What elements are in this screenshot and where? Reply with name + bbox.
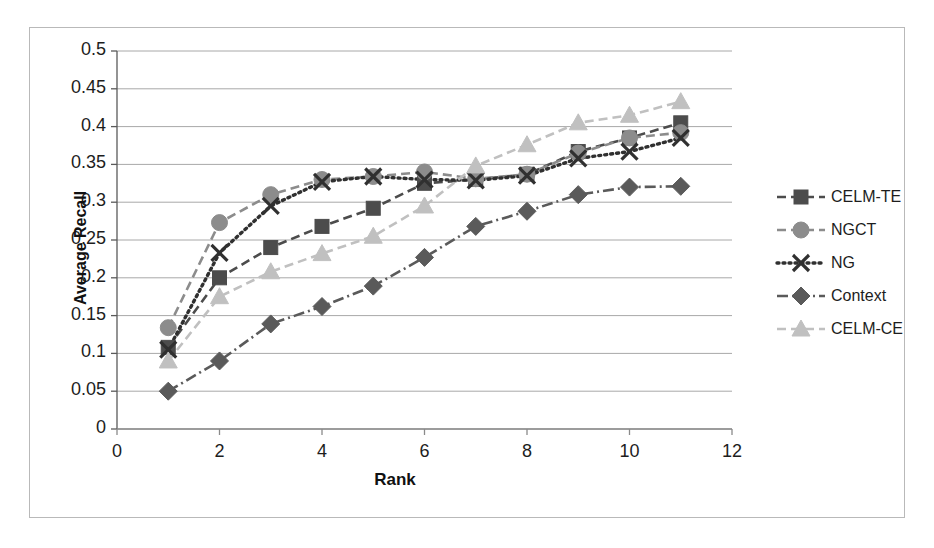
data-point-ngct [160,320,176,336]
x-axis-tick-label: 10 [600,441,660,462]
series-line-context [168,186,681,391]
data-point-context [159,382,177,400]
data-point-celm-ce [569,114,587,130]
data-point-celm-ce [467,157,485,173]
legend-label: NGCT [831,221,876,239]
gridlines-group [117,51,732,429]
y-axis-tick-label: 0.15 [71,304,106,325]
legend-item-celm-ce[interactable]: CELM-CE [775,312,925,345]
legend-label: NG [831,254,855,272]
legend-item-celm-te[interactable]: CELM-TE [775,180,925,213]
y-axis-tick-label: 0 [96,417,106,438]
x-axis-tick-label: 12 [702,441,762,462]
data-point-context [364,277,382,295]
data-point-context [569,186,587,204]
series-markers-group [159,93,690,401]
y-axis-tick-label: 0.4 [81,115,106,136]
series-line-celm-ce [168,102,681,361]
x-axis-tick-label: 4 [292,441,352,462]
chart-figure: 00.050.10.150.20.250.30.350.40.450.5 024… [0,0,934,548]
data-point-celm-ce [364,227,382,243]
legend-symbol-circle-icon [775,220,827,240]
legend-label: CELM-CE [831,320,903,338]
y-axis-tick-label: 0.05 [71,379,106,400]
data-point-ngct [212,215,228,231]
series-lines-group [168,102,681,392]
data-point-celm-ce [518,136,536,152]
legend-symbol-cross-icon [775,253,827,273]
legend-item-ng[interactable]: NG [775,246,925,279]
data-point-celm-ce [621,106,639,122]
legend-item-context[interactable]: Context [775,279,925,312]
legend-marker-square-icon [794,190,808,204]
data-point-celm-te [213,271,227,285]
series-line-celm-te [168,123,681,348]
data-point-celm-ce [416,197,434,213]
x-axis-tick-label: 6 [395,441,455,462]
data-point-context [672,177,690,195]
data-point-context [313,298,331,316]
legend-symbol-diamond-icon [775,286,827,306]
y-axis-tick-label: 0.1 [81,341,106,362]
data-point-context [621,178,639,196]
y-axis-tick-label: 0.35 [71,152,106,173]
legend-symbol-triangle-icon [775,319,827,339]
data-point-celm-ce [211,288,229,304]
x-axis-tick-label: 2 [190,441,250,462]
y-axis-tick-label: 0.45 [71,77,106,98]
data-point-celm-te [315,219,329,233]
legend-label: CELM-TE [831,188,901,206]
legend-symbol-square-icon [775,187,827,207]
data-point-context [416,248,434,266]
data-point-context [518,202,536,220]
data-point-celm-te [264,241,278,255]
data-point-ngct [622,130,638,146]
data-point-ng [212,245,228,261]
data-point-context [262,315,280,333]
y-axis-title: Average Recall [72,191,90,305]
legend-label: Context [831,287,886,305]
x-axis-tick-label: 0 [87,441,147,462]
legend-marker-circle-icon [793,222,809,238]
axes-group [111,51,732,435]
data-point-ngct [314,172,330,188]
data-point-celm-te [366,201,380,215]
legend-marker-diamond-icon [792,287,810,305]
data-point-context [211,352,229,370]
legend-item-ngct[interactable]: NGCT [775,213,925,246]
x-axis-title: Rank [0,470,790,490]
data-point-celm-ce [672,93,690,109]
y-axis-tick-label: 0.5 [81,39,106,60]
chart-legend: CELM-TENGCTNGContextCELM-CE [775,180,925,345]
data-point-context [467,217,485,235]
x-axis-tick-label: 8 [497,441,557,462]
